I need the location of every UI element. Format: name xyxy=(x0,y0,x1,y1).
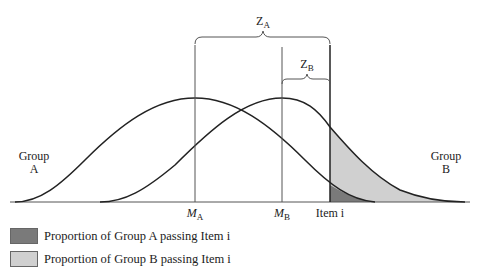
z-a-label: ZA xyxy=(248,15,278,29)
legend-label-group-a: Proportion of Group A passing Item i xyxy=(44,229,230,244)
mean-a-main: M xyxy=(187,206,197,220)
mean-a-sub: A xyxy=(197,212,204,222)
group-b-label: Group B xyxy=(426,150,466,176)
legend-swatch-group-b xyxy=(10,251,38,267)
legend-item-group-a: Proportion of Group A passing Item i xyxy=(10,228,230,244)
legend-swatch-group-a xyxy=(10,228,38,244)
z-b-sub: B xyxy=(308,63,314,73)
mean-a-label: MA xyxy=(180,207,210,221)
mean-b-label: MB xyxy=(267,207,297,221)
z-a-sub: A xyxy=(263,20,270,30)
group-b-label-line2: B xyxy=(426,163,466,176)
mean-b-sub: B xyxy=(284,212,290,222)
legend-label-group-b: Proportion of Group B passing Item i xyxy=(44,252,231,267)
mean-b-main: M xyxy=(274,206,284,220)
z-b-brace xyxy=(282,74,330,84)
z-a-brace xyxy=(195,31,330,44)
z-b-label: ZB xyxy=(292,58,322,72)
item-label: Item i xyxy=(310,207,350,220)
legend-item-group-b: Proportion of Group B passing Item i xyxy=(10,251,231,267)
z-b-main: Z xyxy=(300,57,307,71)
group-a-label: Group A xyxy=(14,150,54,176)
group-a-label-line2: A xyxy=(14,163,54,176)
